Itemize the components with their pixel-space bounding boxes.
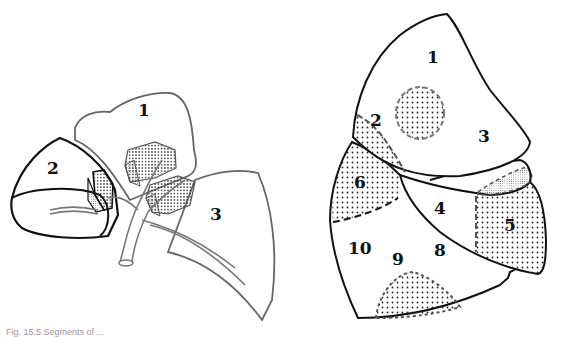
right-segment-6-label: 6 xyxy=(354,172,366,192)
right-segment-8-label: 8 xyxy=(434,240,446,260)
right-segment-4-label: 4 xyxy=(434,198,446,218)
figure-caption: Fig. 15.5 Segments of ... xyxy=(6,327,104,337)
right-segment-2-label: 2 xyxy=(370,110,382,130)
left-segment-1-label: 1 xyxy=(138,100,150,120)
right-hilar-region xyxy=(396,87,444,139)
left-segment-3-label: 3 xyxy=(210,204,222,224)
left-diagram: 1 2 3 xyxy=(11,93,274,320)
right-segment-9-label: 9 xyxy=(392,249,404,269)
right-segment-10-label: 10 xyxy=(348,238,372,258)
right-segment-1-label: 1 xyxy=(427,47,439,67)
left-segment-2-label: 2 xyxy=(47,158,59,178)
right-segment-3-label: 3 xyxy=(478,126,490,146)
right-diagram: 1 2 3 4 5 6 8 9 10 xyxy=(330,14,546,318)
right-segment-5-label: 5 xyxy=(504,215,516,235)
